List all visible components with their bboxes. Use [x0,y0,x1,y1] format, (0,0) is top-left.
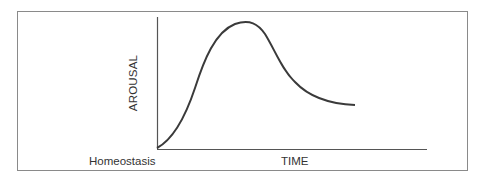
homeostasis-label: Homeostasis [89,155,155,167]
arousal-chart [0,0,487,179]
y-axis-label: AROUSAL [127,55,139,111]
arousal-curve [157,22,355,148]
x-axis-label: TIME [281,155,308,167]
